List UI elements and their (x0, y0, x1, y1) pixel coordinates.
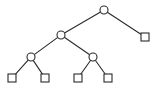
tree-edge (80, 60, 90, 74)
tree-node-leaf (104, 74, 112, 82)
tree-edge (15, 60, 29, 75)
tree-nodes-group (8, 6, 149, 82)
tree-edge (107, 12, 141, 35)
tree-edge (64, 37, 89, 54)
tree-node-leaf (8, 74, 16, 82)
tree-edge (34, 37, 58, 54)
tree-edge (33, 60, 43, 74)
binary-tree-figure (0, 0, 159, 97)
tree-node-leaf (141, 33, 149, 41)
tree-edge (64, 12, 100, 33)
tree-edges-group (15, 12, 142, 75)
tree-node-internal (27, 53, 35, 61)
tree-node-leaf (74, 74, 82, 82)
tree-node-internal (89, 53, 97, 61)
tree-node-internal (57, 31, 65, 39)
tree-canvas (0, 0, 159, 97)
tree-node-leaf (41, 74, 49, 82)
tree-node-internal (100, 6, 108, 14)
tree-edge (95, 60, 105, 74)
